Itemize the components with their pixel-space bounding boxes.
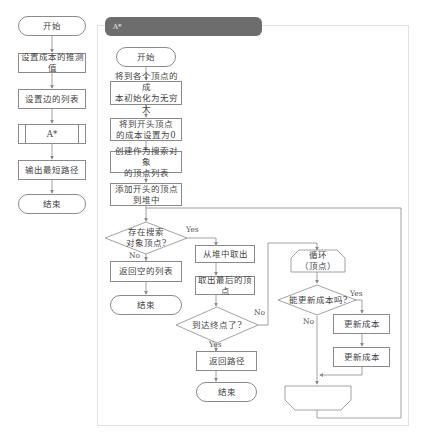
return-empty-label: 返回空的列表 — [119, 266, 173, 277]
no-label-goal: No — [254, 308, 265, 317]
push-start-step: 添加开头的顶点 到堆中 — [110, 183, 182, 206]
main-start-terminal: 开始 — [18, 16, 86, 36]
reached-goal-text: 到达终点了? — [186, 317, 248, 333]
create-search-list-step: 创建作为搜索对象 的顶点列表 — [110, 151, 182, 173]
pop-heap-label: 从堆中取出 — [203, 249, 248, 260]
push-start-line2: 到堆中 — [133, 195, 160, 206]
create-list-line2: 的顶点列表 — [124, 168, 169, 179]
astar-end-left-terminal: 结束 — [110, 295, 182, 315]
main-end-terminal: 结束 — [18, 194, 86, 214]
loop-line1: 循环 — [309, 250, 327, 261]
start-cost-zero-line2: 的成本设置为0 — [116, 130, 175, 141]
loop-line2: （顶点） — [300, 261, 336, 272]
main-end-label: 结束 — [43, 199, 61, 210]
output-path-label: 输出最短路径 — [25, 165, 79, 176]
update-cost-1-label: 更新成本 — [344, 319, 380, 330]
astar-start-terminal: 开始 — [116, 47, 176, 67]
can-update-text: 能更新成本吗? — [287, 292, 349, 308]
push-start-line1: 添加开头的顶点 — [115, 184, 178, 195]
output-path-step: 输出最短路径 — [18, 160, 86, 180]
astar-panel-header-bar — [150, 17, 262, 36]
astar-start-label: 开始 — [137, 52, 155, 63]
return-path-label: 返回路径 — [209, 356, 245, 367]
loop-end-shape — [284, 385, 352, 411]
end-mid-label: 结束 — [218, 387, 236, 398]
no-label-update: No — [303, 317, 314, 326]
return-empty-step: 返回空的列表 — [110, 261, 182, 282]
update-cost-step-2: 更新成本 — [333, 347, 390, 367]
exists-decision-text: 存在搜索 对象顶点? — [118, 224, 174, 252]
astar-end-mid-terminal: 结束 — [196, 382, 257, 402]
main-start-label: 开始 — [43, 21, 61, 32]
astar-call-label: A* — [47, 129, 57, 140]
take-last-step: 取出最后的顶点 — [195, 276, 255, 295]
set-edges-step: 设置边的列表 — [18, 89, 86, 109]
init-costs-step: 将到各个顶点的成 本初始化为无穷大 — [110, 81, 182, 105]
return-path-step: 返回路径 — [196, 351, 257, 371]
exists-line1: 存在搜索 — [128, 227, 164, 238]
astar-subprocess: A* — [18, 124, 86, 144]
exists-line2: 对象顶点? — [126, 238, 167, 249]
start-cost-zero-line1: 将到开头顶点 — [119, 119, 173, 130]
start-cost-zero-step: 将到开头顶点 的成本设置为0 — [110, 118, 182, 141]
pop-heap-step: 从堆中取出 — [195, 245, 255, 263]
no-label-exists: No — [129, 251, 140, 260]
yes-label-goal: Yes — [209, 340, 222, 349]
init-costs-line1: 将到各个顶点的成 — [111, 71, 181, 93]
end-left-label: 结束 — [137, 300, 155, 311]
init-costs-line2: 本初始化为无穷大 — [111, 93, 181, 115]
yes-label-update: Yes — [350, 289, 363, 298]
update-cost-step-1: 更新成本 — [333, 314, 390, 334]
set-heuristic-step: 设置成本的推测值 — [18, 53, 86, 73]
set-heuristic-label: 设置成本的推测值 — [19, 52, 85, 74]
take-last-label: 取出最后的顶点 — [196, 275, 254, 297]
update-cost-2-label: 更新成本 — [344, 352, 380, 363]
loop-start-text: 循环 （顶点） — [290, 250, 346, 272]
subprocess-left-bar — [25, 125, 26, 143]
create-list-line1: 创建作为搜索对象 — [111, 146, 181, 168]
set-edges-label: 设置边的列表 — [25, 94, 79, 105]
yes-label-exists: Yes — [186, 225, 199, 234]
subprocess-right-bar — [78, 125, 79, 143]
astar-panel-title: A* — [113, 23, 122, 31]
